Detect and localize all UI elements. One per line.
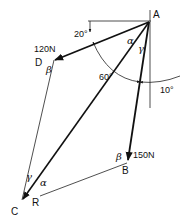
side-bc — [40, 163, 127, 196]
resultant-label-r: R — [32, 197, 39, 208]
angle-gamma-at-a: γ — [138, 43, 144, 54]
angle-beta-at-d: β — [45, 64, 52, 75]
angle-beta-at-b: β — [115, 151, 122, 162]
angle-label-60: 60° — [99, 72, 113, 82]
point-label-c: C — [11, 206, 18, 217]
point-label-b: B — [122, 165, 129, 176]
angle-label-20: 20° — [74, 29, 88, 39]
angle-gamma-at-c: γ — [26, 171, 32, 182]
point-label-d: D — [35, 57, 42, 68]
force-diagram: A D B C 120N 150N R 20° 60° 10° α γ β β … — [0, 0, 186, 221]
force-label-150n: 150N — [133, 150, 155, 160]
point-label-a: A — [153, 9, 160, 20]
angle-label-10: 10° — [160, 85, 174, 95]
angle-alpha-at-a: α — [127, 35, 134, 46]
angle-alpha-at-c: α — [40, 177, 47, 188]
force-label-120n: 120N — [34, 44, 56, 54]
angle-arc-10 — [140, 76, 180, 82]
